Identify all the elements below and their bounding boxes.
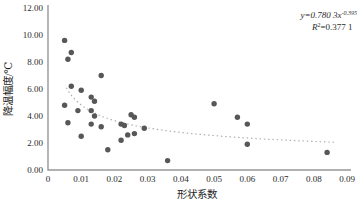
x-axis-tick-labels: 00.010.020.030.040.050.060.070.080.09	[46, 174, 356, 184]
x-tick-label: 0.05	[206, 174, 222, 184]
scatter-point	[245, 121, 250, 126]
scatter-point	[69, 84, 74, 89]
y-tick-label: 6.00	[27, 84, 43, 94]
power-trendline	[66, 88, 335, 143]
scatter-point	[65, 57, 70, 62]
x-tick-label: 0.06	[239, 174, 255, 184]
y-tick-label: 0.00	[27, 165, 43, 175]
scatter-point	[132, 115, 137, 120]
scatter-point	[79, 134, 84, 139]
x-tick-label: 0.02	[107, 174, 123, 184]
scatter-point	[99, 124, 104, 129]
y-tick-label: 10.00	[23, 30, 44, 40]
scatter-point	[211, 101, 216, 106]
scatter-point	[69, 50, 74, 55]
scatter-chart-figure: 0.002.004.006.008.0010.0012.00 00.010.02…	[0, 0, 359, 210]
x-tick-label: 0	[46, 174, 51, 184]
scatter-point	[132, 131, 137, 136]
y-tick-label: 4.00	[27, 111, 43, 121]
r-squared-value: =0.377 1	[321, 22, 353, 32]
scatter-point	[142, 126, 147, 131]
axes	[48, 5, 351, 170]
scatter-point	[75, 108, 80, 113]
y-axis-title: 降温幅度/℃	[2, 61, 14, 116]
axis-lines	[48, 5, 351, 170]
scatter-point	[89, 108, 94, 113]
scatter-point	[92, 113, 97, 118]
scatter-points	[62, 38, 330, 164]
x-tick-label: 0.01	[73, 174, 89, 184]
x-tick-label: 0.04	[173, 174, 189, 184]
r-squared-label: R2=0.377 1	[311, 22, 353, 33]
scatter-point	[122, 123, 127, 128]
scatter-point	[65, 120, 70, 125]
x-tick-label: 0.09	[339, 174, 355, 184]
scatter-point	[62, 103, 67, 108]
x-tick-label: 0.07	[273, 174, 289, 184]
x-tick-label: 0.03	[140, 174, 156, 184]
scatter-point	[89, 121, 94, 126]
x-tick-label: 0.08	[306, 174, 322, 184]
y-axis-tick-labels: 0.002.004.006.008.0010.0012.00	[23, 3, 44, 175]
scatter-plot-svg: 0.002.004.006.008.0010.0012.00 00.010.02…	[0, 0, 359, 210]
scatter-point	[105, 147, 110, 152]
equation-exponent: -0.395	[342, 10, 358, 16]
x-axis-title: 形状系数	[177, 188, 218, 200]
scatter-point	[79, 88, 84, 93]
scatter-point	[245, 142, 250, 147]
scatter-point	[118, 138, 123, 143]
scatter-point	[92, 99, 97, 104]
scatter-point	[62, 38, 67, 43]
trendline-path	[66, 88, 335, 143]
scatter-point	[99, 73, 104, 78]
y-tick-label: 12.00	[23, 3, 44, 13]
scatter-point	[235, 115, 240, 120]
y-tick-label: 8.00	[27, 57, 43, 67]
scatter-point	[324, 150, 329, 155]
scatter-point	[165, 158, 170, 163]
y-tick-label: 2.00	[27, 138, 43, 148]
scatter-point	[125, 132, 130, 137]
trendline-equation: y=0.780 3x-0.395	[299, 10, 357, 21]
